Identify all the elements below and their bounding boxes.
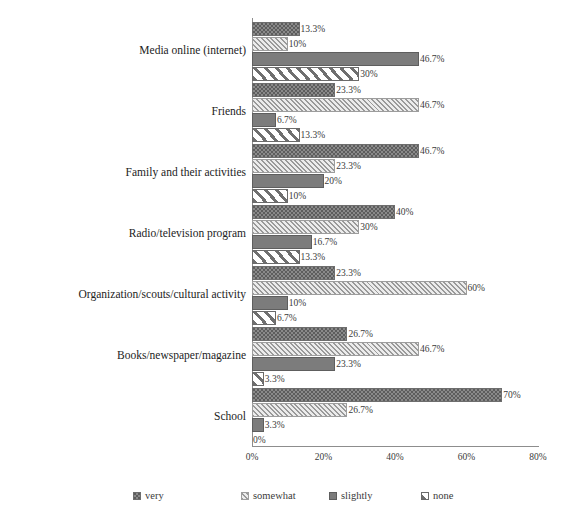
bar-value-label: 46.7% <box>420 342 445 356</box>
bar-value-label: 10% <box>289 189 306 203</box>
bar-slightly <box>252 418 264 432</box>
bar-somewhat <box>252 98 419 112</box>
legend-label: none <box>433 490 453 501</box>
legend-swatch-icon <box>329 492 337 500</box>
bar-slightly <box>252 296 288 310</box>
chart-legend: verysomewhatslightlynone <box>133 490 533 508</box>
bar-slightly <box>252 357 335 371</box>
bar-row: 20% <box>252 174 538 188</box>
x-tick-label: 80% <box>529 452 546 462</box>
bar-row: 23.3% <box>252 159 538 173</box>
bar-none <box>252 250 300 264</box>
category-group: 70%26.7%3.3%0% <box>252 388 538 448</box>
legend-item-somewhat[interactable]: somewhat <box>241 490 296 501</box>
bar-row: 60% <box>252 281 538 295</box>
bar-value-label: 46.7% <box>420 98 445 112</box>
bar-value-label: 13.3% <box>301 128 326 142</box>
bar-row: 46.7% <box>252 144 538 158</box>
bar-slightly <box>252 174 324 188</box>
bar-row: 6.7% <box>252 113 538 127</box>
bar-row: 30% <box>252 220 538 234</box>
bar-row: 46.7% <box>252 98 538 112</box>
x-tick-label: 0% <box>246 452 259 462</box>
bar-none <box>252 372 264 386</box>
bar-slightly <box>252 52 419 66</box>
bar-value-label: 10% <box>289 296 306 310</box>
bar-value-label: 30% <box>360 220 377 234</box>
bar-very <box>252 266 335 280</box>
bar-value-label: 16.7% <box>313 235 338 249</box>
category-label: Media online (internet) <box>4 44 252 57</box>
bar-chart: 13.3%10%46.7%30%23.3%46.7%6.7%13.3%46.7%… <box>0 0 567 520</box>
bar-somewhat <box>252 403 347 417</box>
bar-value-label: 3.3% <box>265 372 285 386</box>
bar-row: 23.3% <box>252 83 538 97</box>
legend-label: very <box>145 490 164 501</box>
bar-slightly <box>252 113 276 127</box>
legend-swatch-icon <box>133 492 141 500</box>
legend-swatch-icon <box>421 492 429 500</box>
x-tick-label: 40% <box>386 452 403 462</box>
bar-row: 3.3% <box>252 372 538 386</box>
bar-none <box>252 128 300 142</box>
plot-area: 13.3%10%46.7%30%23.3%46.7%6.7%13.3%46.7%… <box>252 18 538 446</box>
bar-value-label: 26.7% <box>348 403 373 417</box>
category-label: Friends <box>4 105 252 118</box>
legend-item-slightly[interactable]: slightly <box>329 490 373 501</box>
bar-value-label: 23.3% <box>336 266 361 280</box>
bar-value-label: 20% <box>325 174 342 188</box>
category-label: Books/newspaper/magazine <box>4 349 252 362</box>
bar-very <box>252 83 335 97</box>
bar-somewhat <box>252 220 359 234</box>
bar-somewhat <box>252 37 288 51</box>
bar-row: 23.3% <box>252 357 538 371</box>
bar-value-label: 10% <box>289 37 306 51</box>
bar-very <box>252 205 395 219</box>
category-group: 23.3%46.7%6.7%13.3% <box>252 83 538 143</box>
bar-none <box>252 189 288 203</box>
bar-value-label: 26.7% <box>348 327 373 341</box>
bar-row: 26.7% <box>252 403 538 417</box>
bar-value-label: 3.3% <box>265 418 285 432</box>
bar-very <box>252 327 347 341</box>
bar-row: 10% <box>252 296 538 310</box>
category-label: School <box>4 410 252 423</box>
bar-none <box>252 67 359 81</box>
bar-row: 46.7% <box>252 342 538 356</box>
bar-none <box>252 311 276 325</box>
bar-value-label: 46.7% <box>420 52 445 66</box>
bar-row: 70% <box>252 388 538 402</box>
bar-slightly <box>252 235 312 249</box>
category-label: Organization/scouts/cultural activity <box>4 288 252 301</box>
bar-row: 3.3% <box>252 418 538 432</box>
bar-somewhat <box>252 281 467 295</box>
bar-row: 16.7% <box>252 235 538 249</box>
bar-somewhat <box>252 159 335 173</box>
category-label: Family and their activities <box>4 166 252 179</box>
bar-value-label: 70% <box>503 388 520 402</box>
category-group: 46.7%23.3%20%10% <box>252 144 538 204</box>
legend-item-very[interactable]: very <box>133 490 164 501</box>
bar-row: 0% <box>252 433 538 447</box>
category-group: 13.3%10%46.7%30% <box>252 22 538 82</box>
bar-value-label: 23.3% <box>336 83 361 97</box>
bar-row: 23.3% <box>252 266 538 280</box>
bar-value-label: 40% <box>396 205 413 219</box>
category-group: 40%30%16.7%13.3% <box>252 205 538 265</box>
category-group: 26.7%46.7%23.3%3.3% <box>252 327 538 387</box>
bar-row: 10% <box>252 189 538 203</box>
bar-row: 10% <box>252 37 538 51</box>
legend-item-none[interactable]: none <box>421 490 453 501</box>
bar-very <box>252 22 300 36</box>
bar-row: 40% <box>252 205 538 219</box>
bar-value-label: 23.3% <box>336 159 361 173</box>
category-group: 23.3%60%10%6.7% <box>252 266 538 326</box>
bar-very <box>252 388 502 402</box>
bar-value-label: 6.7% <box>277 113 297 127</box>
bar-value-label: 13.3% <box>301 250 326 264</box>
legend-label: slightly <box>341 490 373 501</box>
x-tick-label: 60% <box>458 452 475 462</box>
bar-row: 30% <box>252 67 538 81</box>
bar-somewhat <box>252 342 419 356</box>
bar-value-label: 60% <box>468 281 485 295</box>
